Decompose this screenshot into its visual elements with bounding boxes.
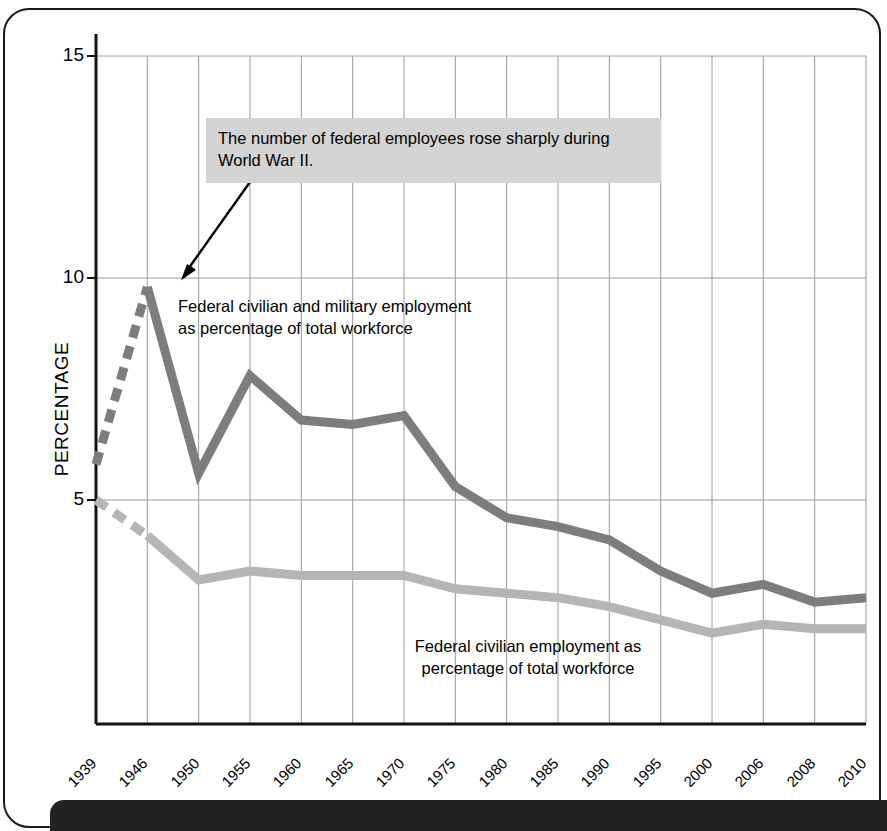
- callout-line-2: World War II.: [218, 149, 651, 171]
- light-series-label-line-1: Federal civilian employment as: [378, 636, 678, 658]
- light-series-label: Federal civilian employment as percentag…: [378, 636, 678, 680]
- y-axis-title: PERCENTAGE: [51, 299, 73, 519]
- chart-container: PERCENTAGE 15105 19391946195019551960196…: [0, 0, 887, 831]
- y-tick-label: 15: [40, 44, 84, 66]
- annotation-arrow: [180, 182, 250, 281]
- callout-annotation: The number of federal employees rose sha…: [206, 118, 661, 183]
- callout-line-1: The number of federal employees rose sha…: [218, 127, 651, 149]
- dark-series-label-line-1: Federal civilian and military employment: [178, 296, 471, 318]
- dark-series-label-line-2: as percentage of total workforce: [178, 318, 471, 340]
- light-series-label-line-2: percentage of total workforce: [378, 658, 678, 680]
- dark-series-label: Federal civilian and military employment…: [178, 296, 471, 340]
- chart-page: PERCENTAGE 15105 19391946195019551960196…: [0, 0, 887, 831]
- y-tick-label: 10: [40, 266, 84, 288]
- y-tick-label: 5: [40, 488, 84, 510]
